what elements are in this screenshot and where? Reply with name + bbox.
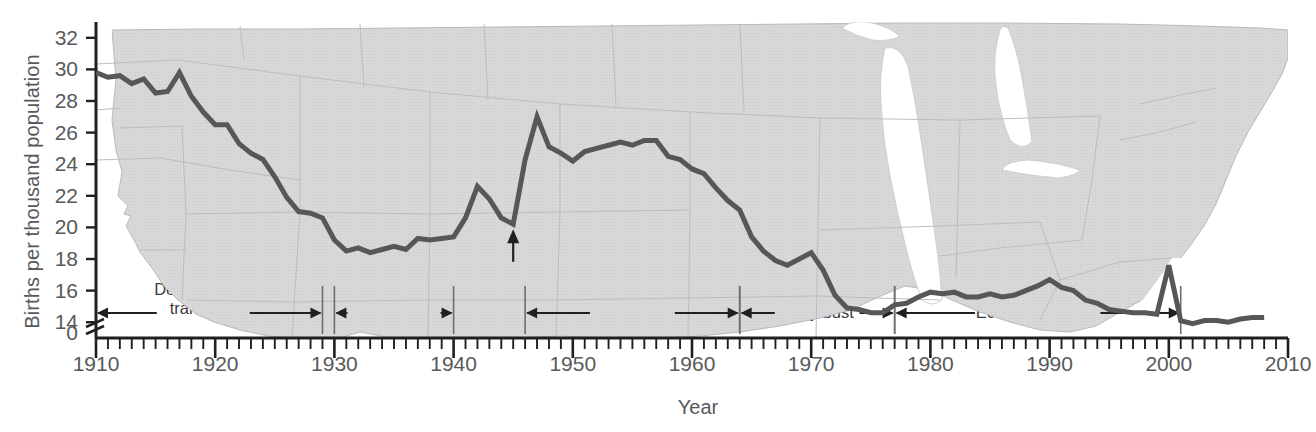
annotation-arrowhead	[896, 308, 907, 319]
x-axis-tick-marks	[96, 338, 1288, 358]
us-landmass-shape	[112, 23, 1288, 338]
